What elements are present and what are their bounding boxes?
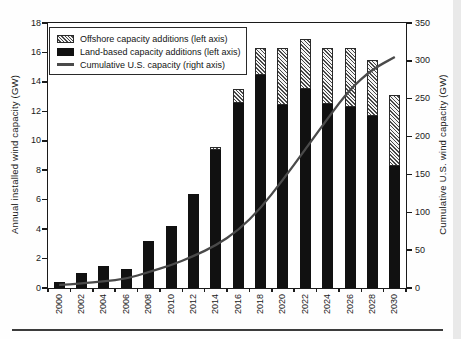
left-tick-label: 6 [17, 194, 41, 205]
right-axis-tick [407, 22, 412, 24]
x-axis-tick [159, 288, 161, 292]
x-tick-label: 2020 [277, 294, 288, 320]
left-axis-tick [42, 140, 47, 142]
left-tick-label: 0 [17, 283, 41, 294]
left-tick-label: 10 [17, 135, 41, 146]
left-axis-tick [42, 169, 47, 171]
x-tick-label: 2004 [98, 294, 109, 320]
cumulative-capacity-line [48, 23, 406, 288]
x-axis-tick [204, 288, 206, 292]
left-axis-tick [42, 52, 47, 54]
x-tick-label: 2002 [76, 294, 87, 320]
left-tick-label: 4 [17, 224, 41, 235]
x-tick-label: 2014 [210, 294, 221, 320]
x-tick-label: 2024 [322, 294, 333, 320]
left-tick-label: 2 [17, 253, 41, 264]
left-tick-label: 12 [17, 106, 41, 117]
x-axis-tick [338, 288, 340, 292]
x-axis-tick [226, 288, 228, 292]
left-tick-label: 8 [17, 165, 41, 176]
x-axis-tick [383, 288, 385, 292]
x-axis-tick [47, 288, 49, 292]
left-axis-tick [42, 111, 47, 113]
left-tick-label: 16 [17, 47, 41, 58]
right-axis-tick [407, 249, 412, 251]
right-axis-tick [407, 287, 412, 289]
left-tick-label: 18 [17, 18, 41, 29]
right-axis-tick [407, 98, 412, 100]
x-axis-tick [182, 288, 184, 292]
right-axis-tick [407, 60, 412, 62]
left-axis-tick [42, 258, 47, 260]
x-axis-tick [137, 288, 139, 292]
left-axis-tick [42, 81, 47, 83]
x-tick-label: 2008 [143, 294, 154, 320]
scan-edge-strip [453, 0, 461, 339]
plot-area: Offshore capacity additions (left axis) … [47, 22, 407, 289]
x-tick-label: 2000 [54, 294, 65, 320]
x-tick-label: 2030 [389, 294, 400, 320]
right-axis-title: Cumulative U.S. wind capacity (GW) [437, 22, 448, 287]
x-tick-label: 2022 [300, 294, 311, 320]
left-axis-title: Annual installed wind capacity (GW) [9, 22, 20, 287]
x-axis-tick [271, 288, 273, 292]
x-tick-label: 2026 [345, 294, 356, 320]
x-tick-label: 2018 [255, 294, 266, 320]
right-axis-tick [407, 136, 412, 138]
x-tick-label: 2006 [121, 294, 132, 320]
x-tick-label: 2016 [233, 294, 244, 320]
wind-capacity-chart-figure: Offshore capacity additions (left axis) … [0, 0, 461, 339]
x-tick-label: 2010 [166, 294, 177, 320]
right-axis-tick [407, 174, 412, 176]
left-axis-tick [42, 287, 47, 289]
x-axis-tick [316, 288, 318, 292]
x-axis-tick [249, 288, 251, 292]
left-axis-tick [42, 228, 47, 230]
left-axis-tick [42, 199, 47, 201]
page-divider-rule [12, 329, 443, 331]
x-axis-tick [70, 288, 72, 292]
left-tick-label: 14 [17, 76, 41, 87]
x-axis-tick [92, 288, 94, 292]
x-tick-label: 2028 [367, 294, 378, 320]
x-axis-tick [361, 288, 363, 292]
x-axis-tick [293, 288, 295, 292]
x-tick-label: 2012 [188, 294, 199, 320]
right-axis-tick [407, 212, 412, 214]
left-axis-tick [42, 22, 47, 24]
x-axis-tick [114, 288, 116, 292]
